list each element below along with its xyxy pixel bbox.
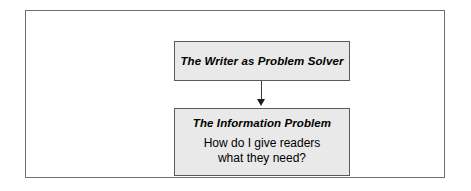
flowchart-figure: The Writer as Problem Solver The Informa… (0, 0, 471, 191)
flow-node-writer-title: The Writer as Problem Solver (180, 55, 343, 68)
figure-frame: The Writer as Problem Solver The Informa… (25, 10, 445, 178)
flow-node-information-body-line-2: what they need? (218, 151, 306, 166)
flow-node-information-title: The Information Problem (193, 117, 331, 130)
flow-node-writer[interactable]: The Writer as Problem Solver (174, 41, 350, 81)
flow-node-information-body-line-1: How do I give readers (204, 136, 321, 151)
down-arrow-icon (257, 99, 265, 106)
flow-node-information[interactable]: The Information Problem How do I give re… (174, 108, 350, 176)
